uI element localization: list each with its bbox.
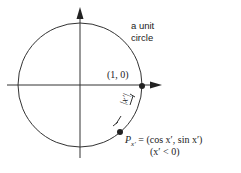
unit-circle-diagram [0,0,241,173]
point-1-0-label: (1, 0) [107,70,129,80]
x-axis-arrow-icon [150,82,162,89]
circle-label-line1: a unit [131,21,154,31]
point-p-coordinates: = (cos x′, sin x′) [136,134,203,145]
point-p [117,129,123,135]
circle-label: a unit circle [131,21,154,42]
condition-label: (x′ < 0) [150,147,180,157]
point-1-0 [139,83,145,89]
circle-label-line2: circle [131,33,154,43]
y-axis-arrow-icon [77,7,84,19]
